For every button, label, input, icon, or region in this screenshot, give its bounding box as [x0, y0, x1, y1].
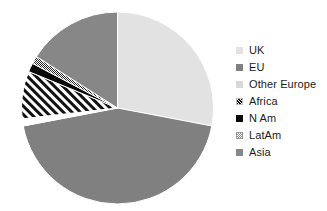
- legend-swatch-latam: [236, 132, 243, 139]
- legend-swatch-asia: [236, 149, 243, 156]
- legend-label-latam: LatAm: [249, 129, 281, 141]
- pie-slice-uk[interactable]: [118, 12, 214, 126]
- legend-item-n-am[interactable]: N Am: [236, 112, 327, 124]
- legend-swatch-eu: [236, 64, 243, 71]
- legend-swatch-africa: [236, 98, 243, 105]
- legend-label-africa: Africa: [249, 95, 278, 107]
- legend-label-eu: EU: [249, 61, 264, 73]
- legend-item-africa[interactable]: Africa: [236, 95, 327, 107]
- chart-legend: UK EU Other Europe Africa N Am LatAm Asi…: [232, 0, 327, 158]
- legend-item-eu[interactable]: EU: [236, 61, 327, 73]
- pie-svg: [0, 0, 232, 211]
- legend-swatch-uk: [236, 47, 243, 54]
- legend-swatch-other-europe: [236, 81, 243, 88]
- pie-plot-area: [0, 0, 232, 211]
- legend-label-asia: Asia: [249, 146, 271, 158]
- pie-slice-eu[interactable]: [23, 108, 212, 204]
- pie-slices: [21, 12, 213, 204]
- legend-item-asia[interactable]: Asia: [236, 146, 327, 158]
- pie-chart: UK EU Other Europe Africa N Am LatAm Asi…: [0, 0, 327, 211]
- legend-item-other-europe[interactable]: Other Europe: [236, 78, 327, 90]
- legend-label-uk: UK: [249, 44, 264, 56]
- legend-swatch-n-am: [236, 115, 243, 122]
- legend-item-uk[interactable]: UK: [236, 44, 327, 56]
- legend-label-other-europe: Other Europe: [249, 78, 316, 90]
- legend-item-latam[interactable]: LatAm: [236, 129, 327, 141]
- legend-label-n-am: N Am: [249, 112, 276, 124]
